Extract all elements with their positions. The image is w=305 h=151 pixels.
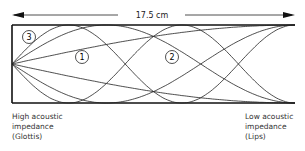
- glottis-label: High acoustic impedance (Glottis): [12, 112, 63, 142]
- length-label: 17.5 cm: [136, 11, 169, 20]
- wave-mode-1: [12, 25, 295, 64]
- mode-label: 2: [169, 53, 174, 62]
- wave-mode-1: [12, 64, 295, 103]
- lips-label: Low acoustic impedance (Lips): [245, 112, 293, 142]
- mode-label: 3: [26, 33, 31, 42]
- mode-label: 1: [79, 53, 84, 62]
- arrowhead-left-icon: [12, 12, 24, 18]
- dimension-arrow: 17.5 cm: [12, 11, 295, 20]
- arrowhead-right-icon: [283, 12, 295, 18]
- standing-wave-curves: [12, 25, 295, 103]
